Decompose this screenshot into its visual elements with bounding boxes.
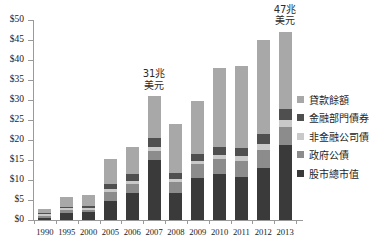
y-axis-label: $20 (10, 135, 24, 145)
legend-item-4[interactable]: 股市總市值 (297, 164, 386, 183)
x-axis-label: 1990 (36, 228, 53, 237)
x-axis-label: 2012 (255, 228, 272, 237)
y-axis-label: $15 (10, 155, 24, 165)
bar-2012[interactable] (257, 40, 270, 220)
x-axis-tick (231, 220, 232, 224)
bar-segment (60, 213, 73, 220)
bar-segment (213, 159, 226, 173)
x-axis-tick (56, 220, 57, 224)
bar-segment (126, 174, 139, 181)
chart-legend: 貸款餘額金融部門債券非金融公司債政府公債股市總市值 (297, 90, 386, 183)
legend-swatch-icon (297, 170, 304, 177)
legend-item-3[interactable]: 政府公債 (297, 146, 386, 165)
legend-item-0[interactable]: 貸款餘額 (297, 90, 386, 109)
bar-segment (213, 68, 226, 147)
x-axis-label: 2013 (276, 228, 293, 237)
legend-item-1[interactable]: 金融部門債券 (297, 109, 386, 128)
annotation-line-2: 美元 (132, 80, 176, 91)
y-axis-tick (28, 100, 33, 101)
x-axis-tick (209, 220, 210, 224)
y-axis-label: $45 (10, 35, 24, 45)
bar-segment (169, 182, 182, 193)
bar-segment (126, 147, 139, 174)
y-axis-tick (28, 180, 33, 181)
bar-segment (104, 159, 117, 185)
y-axis-tick (28, 140, 33, 141)
x-axis-label: 2005 (102, 228, 119, 237)
x-axis-label: 2007 (145, 228, 162, 237)
y-axis-tick (28, 40, 33, 41)
legend-label: 政府公債 (309, 147, 349, 162)
bar-segment (148, 160, 161, 220)
annotation-line-1: 47兆 (263, 4, 307, 15)
bar-segment (148, 138, 161, 147)
x-axis-tick (100, 220, 101, 224)
bar-segment (235, 66, 248, 148)
bar-segment (126, 184, 139, 193)
x-axis-tick (274, 220, 275, 224)
bar-segment (169, 124, 182, 172)
bar-segment (38, 218, 51, 220)
legend-swatch-icon (297, 151, 304, 158)
bar-annotation-2013: 47兆美元 (263, 4, 307, 26)
bar-segment (60, 197, 73, 207)
x-axis-tick (252, 220, 253, 224)
y-axis-tick (28, 120, 33, 121)
y-axis-label: $5 (15, 195, 25, 205)
x-axis-label: 2006 (124, 228, 141, 237)
bar-segment (213, 174, 226, 220)
bar-2007[interactable] (148, 96, 161, 220)
bar-segment (126, 193, 139, 220)
bar-segment (169, 193, 182, 220)
legend-item-2[interactable]: 非金融公司債 (297, 127, 386, 146)
y-axis-tick (28, 20, 33, 21)
bar-2005[interactable] (104, 159, 117, 220)
legend-swatch-icon (297, 96, 304, 103)
bar-segment (257, 40, 270, 134)
bar-1990[interactable] (38, 209, 51, 220)
bar-2013[interactable] (279, 32, 292, 220)
x-axis-tick (34, 220, 35, 224)
legend-label: 股市總市值 (309, 166, 359, 181)
bar-2006[interactable] (126, 147, 139, 220)
bar-annotation-2007: 31兆美元 (132, 68, 176, 90)
x-axis-line (33, 220, 303, 221)
bar-segment (82, 212, 95, 220)
bar-segment (213, 147, 226, 155)
bar-segment (257, 168, 270, 220)
y-axis-label: $35 (10, 75, 24, 85)
x-axis-label: 1995 (58, 228, 75, 237)
plot-area (34, 20, 296, 220)
x-axis-tick (78, 220, 79, 224)
legend-label: 非金融公司債 (309, 129, 368, 144)
bar-segment (191, 101, 204, 154)
bar-segment (191, 164, 204, 178)
legend-label: 金融部門債券 (309, 110, 368, 125)
x-axis-label: 2008 (167, 228, 184, 237)
legend-swatch-icon (297, 133, 304, 140)
bar-2010[interactable] (213, 68, 226, 220)
bar-segment (279, 145, 292, 220)
bar-segment (191, 178, 204, 220)
bar-2009[interactable] (191, 101, 204, 220)
bar-segment (235, 177, 248, 220)
annotation-line-2: 美元 (263, 15, 307, 26)
bar-segment (279, 120, 292, 127)
legend-swatch-icon (297, 114, 304, 121)
x-axis-tick (165, 220, 166, 224)
y-axis-label: $0 (15, 215, 25, 225)
x-axis-label: 2011 (233, 228, 250, 237)
bar-2011[interactable] (235, 66, 248, 220)
bar-2000[interactable] (82, 195, 95, 220)
y-axis-tick (28, 60, 33, 61)
bar-2008[interactable] (169, 124, 182, 220)
stacked-bar-chart: $0$5$10$15$20$25$30$35$40$45$50 19901995… (0, 0, 386, 248)
bar-segment (279, 127, 292, 145)
bar-segment (257, 134, 270, 144)
y-axis-tick (28, 160, 33, 161)
bar-segment (235, 148, 248, 156)
x-axis-label: 2010 (211, 228, 228, 237)
bar-1995[interactable] (60, 197, 73, 220)
legend-label: 貸款餘額 (309, 92, 349, 107)
y-axis-label: $25 (10, 115, 24, 125)
